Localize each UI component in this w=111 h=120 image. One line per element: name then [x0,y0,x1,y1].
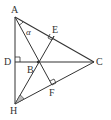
label-C: C [96,56,103,67]
label-B: B [27,64,34,75]
angle-alpha-arc [19,22,23,25]
label-H: H [10,105,17,116]
label-A: A [11,4,19,15]
geometry-diagram: A E C D B F H α [0,0,111,120]
point-B-dot [37,61,39,63]
right-angle-marker-D [15,57,20,62]
label-E: E [52,24,58,35]
label-F: F [49,87,55,98]
angle-H-shade [15,95,24,104]
label-D: D [4,56,11,67]
label-alpha: α [26,27,31,37]
